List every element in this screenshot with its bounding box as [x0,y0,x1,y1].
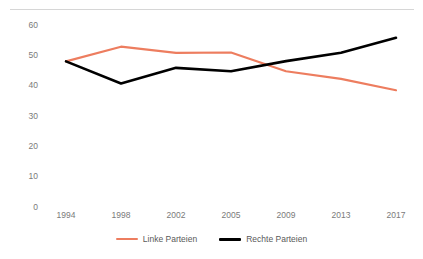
series-line-linke-parteien [66,47,396,91]
legend-label-linke: Linke Parteien [143,234,197,244]
legend-item-rechte-parteien[interactable]: Rechte Parteien [219,234,307,244]
x-axis-tick-2005: 2005 [222,210,241,220]
y-axis-tick-40: 40 [0,81,38,90]
y-axis-tick-20: 20 [0,142,38,151]
y-axis-tick-60: 60 [0,21,38,30]
y-axis-labels: 60 50 40 30 20 10 0 [0,0,38,259]
y-axis-tick-50: 50 [0,51,38,60]
y-axis-tick-10: 10 [0,172,38,181]
x-axis-tick-2002: 2002 [167,210,186,220]
line-chart: 60 50 40 30 20 10 0 1994 1998 2002 2005 … [0,0,423,259]
chart-legend: Linke Parteien Rechte Parteien [0,234,423,244]
x-axis-tick-1998: 1998 [112,210,131,220]
x-axis-labels: 1994 1998 2002 2005 2009 2013 2017 [42,210,408,224]
chart-top-divider [10,9,414,10]
legend-color-swatch-linke [116,238,138,240]
legend-color-swatch-rechte [219,238,241,241]
plot-area [42,24,408,208]
x-axis-tick-2013: 2013 [332,210,351,220]
series-line-rechte-parteien [66,38,396,84]
x-axis-tick-2009: 2009 [277,210,296,220]
legend-item-linke-parteien[interactable]: Linke Parteien [116,234,197,244]
series-canvas [42,24,408,208]
y-axis-tick-30: 30 [0,112,38,121]
legend-label-rechte: Rechte Parteien [246,234,307,244]
x-axis-tick-1994: 1994 [57,210,76,220]
x-axis-tick-2017: 2017 [387,210,406,220]
y-axis-tick-0: 0 [0,203,38,212]
chart-title-clipped [0,0,423,9]
